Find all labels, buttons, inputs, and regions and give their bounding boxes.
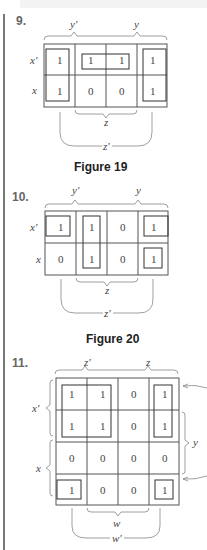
svg-text:0: 0	[131, 452, 137, 464]
svg-text:x: x	[35, 253, 41, 265]
svg-text:1: 1	[69, 484, 75, 496]
svg-text:x': x'	[29, 221, 38, 233]
svg-text:1: 1	[69, 388, 75, 400]
svg-text:1: 1	[151, 221, 157, 233]
svg-text:1: 1	[162, 388, 168, 400]
svg-text:x: x	[31, 84, 37, 96]
svg-text:0: 0	[131, 484, 137, 496]
svg-text:0: 0	[120, 221, 126, 233]
svg-text:x': x'	[31, 402, 40, 414]
svg-text:1: 1	[150, 54, 156, 66]
svg-text:1: 1	[151, 253, 157, 265]
karnaugh-map-problem-11: z' z x' x y 1 1 0 1 1 1 0 1 0 0 0 0 1 0 …	[0, 350, 207, 550]
karnaugh-map-figure-19: y' y x' x 1 1 1 1 1 0 0 1 z z'	[0, 0, 207, 160]
figure-caption-20: Figure 20	[86, 332, 139, 346]
svg-text:0: 0	[58, 253, 64, 265]
label-y: y	[133, 18, 139, 30]
label-y-prime: y'	[69, 18, 78, 30]
svg-text:1: 1	[89, 253, 95, 265]
svg-text:1: 1	[100, 420, 106, 432]
svg-text:1: 1	[162, 420, 168, 432]
svg-text:0: 0	[100, 484, 106, 496]
svg-text:1: 1	[150, 85, 156, 97]
svg-text:z': z'	[83, 356, 91, 368]
svg-text:1: 1	[57, 85, 63, 97]
svg-text:1: 1	[58, 221, 64, 233]
svg-text:0: 0	[162, 452, 168, 464]
svg-text:z': z'	[103, 307, 111, 319]
svg-text:1: 1	[88, 54, 94, 66]
svg-text:0: 0	[119, 85, 125, 97]
svg-text:0: 0	[100, 452, 106, 464]
figure-caption-19: Figure 19	[74, 160, 127, 174]
svg-text:y': y'	[71, 184, 80, 196]
svg-text:z: z	[103, 116, 109, 128]
svg-text:y: y	[192, 436, 198, 448]
svg-text:1: 1	[57, 54, 63, 66]
svg-text:z: z	[104, 284, 110, 296]
svg-text:y: y	[135, 184, 141, 196]
svg-text:0: 0	[69, 452, 75, 464]
svg-text:w: w	[113, 517, 121, 529]
svg-text:0: 0	[88, 85, 94, 97]
svg-text:1: 1	[69, 420, 75, 432]
svg-text:w': w'	[112, 532, 122, 544]
svg-text:x': x'	[29, 54, 38, 66]
svg-text:1: 1	[162, 484, 168, 496]
svg-text:1: 1	[119, 54, 125, 66]
svg-text:x: x	[35, 462, 41, 474]
svg-text:0: 0	[131, 420, 137, 432]
karnaugh-map-figure-20: y' y x' x 1 1 0 1 0 1 0 1 z z'	[0, 180, 207, 340]
svg-text:0: 0	[131, 388, 137, 400]
svg-text:0: 0	[120, 253, 126, 265]
svg-text:1: 1	[89, 221, 95, 233]
svg-text:z': z'	[102, 140, 110, 152]
svg-text:1: 1	[100, 388, 106, 400]
